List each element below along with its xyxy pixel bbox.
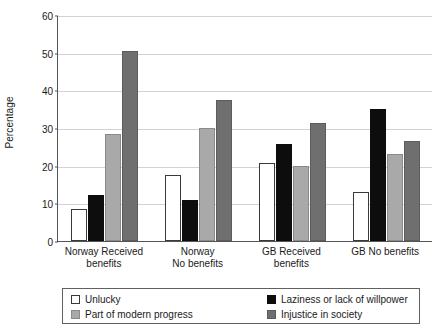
y-axis-tick-label: 30 [42, 124, 53, 135]
bar [293, 166, 309, 241]
x-axis-group-label: NorwayNo benefits [151, 246, 245, 270]
bar [122, 51, 138, 241]
bar [71, 209, 87, 241]
bar [404, 141, 420, 241]
bar [182, 200, 198, 241]
y-axis-title: Percentage [0, 0, 18, 245]
legend-item-laziness: Laziness or lack of willpower [267, 294, 408, 305]
y-axis-tick-mark [55, 242, 58, 243]
plot-area: 0102030405060 [57, 16, 432, 242]
legend-label: Laziness or lack of willpower [281, 294, 408, 305]
bar [259, 163, 275, 241]
legend-swatch-icon [71, 295, 80, 304]
x-axis-group-label: Norway Receivedbenefits [57, 246, 151, 270]
bars-layer [58, 16, 432, 241]
bar [165, 175, 181, 241]
y-axis-title-text: Percentage [4, 96, 15, 148]
x-axis-labels: Norway ReceivedbenefitsNorwayNo benefits… [57, 246, 432, 282]
bar [353, 192, 369, 241]
bar [310, 123, 326, 241]
bar [276, 144, 292, 241]
legend-swatch-icon [267, 295, 276, 304]
legend-row: Part of modern progress Injustice in soc… [71, 308, 419, 321]
legend-swatch-icon [267, 310, 276, 319]
legend-label: Injustice in society [281, 309, 362, 320]
x-axis-group-label: GB Receivedbenefits [245, 246, 339, 270]
bar [105, 134, 121, 241]
bar [216, 100, 232, 241]
y-axis-tick-label: 50 [42, 48, 53, 59]
legend-item-unlucky: Unlucky [71, 294, 267, 305]
bar [370, 109, 386, 241]
y-axis-tick-label: 60 [42, 11, 53, 22]
legend: Unlucky Laziness or lack of willpower Pa… [62, 288, 420, 324]
legend-label: Unlucky [85, 294, 121, 305]
bar [199, 128, 215, 241]
x-axis-group-label: GB No benefits [338, 246, 432, 258]
bar-chart: Percentage 0102030405060 Norway Received… [0, 0, 435, 329]
legend-swatch-icon [71, 310, 80, 319]
bar [88, 195, 104, 241]
legend-row: Unlucky Laziness or lack of willpower [71, 293, 419, 306]
y-axis-tick-label: 0 [47, 237, 53, 248]
y-axis-tick-label: 10 [42, 199, 53, 210]
y-axis-tick-label: 40 [42, 86, 53, 97]
legend-item-modern-progress: Part of modern progress [71, 309, 267, 320]
legend-item-injustice: Injustice in society [267, 309, 362, 320]
legend-label: Part of modern progress [85, 309, 193, 320]
y-axis-tick-label: 20 [42, 161, 53, 172]
bar [387, 154, 403, 241]
